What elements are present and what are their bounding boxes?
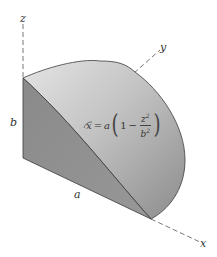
eq-coef: a: [104, 120, 110, 131]
eq-den-exp: 2: [146, 127, 150, 134]
eq-numerator: z2: [140, 112, 151, 126]
eq-one: 1: [120, 120, 126, 131]
x-axis-label: x: [200, 238, 206, 249]
length-label-a: a: [74, 189, 81, 200]
eq-fraction: z2 b2: [140, 112, 151, 139]
eq-num-exp: 2: [146, 112, 150, 119]
y-axis-label: y: [160, 42, 166, 53]
z-axis-label: z: [20, 13, 26, 24]
height-label-b: b: [10, 117, 17, 128]
eq-right-paren: ): [153, 111, 160, 137]
y-axis: [134, 50, 160, 73]
eq-equals: =: [94, 120, 102, 131]
surface-equation: x = a ( 1 − z2 b2 ): [86, 112, 162, 139]
x-axis: [151, 219, 200, 242]
eq-denominator: b2: [140, 126, 150, 139]
eq-minus: −: [129, 120, 137, 131]
eq-lhs: x: [86, 120, 92, 131]
eq-left-paren: (: [112, 111, 119, 137]
